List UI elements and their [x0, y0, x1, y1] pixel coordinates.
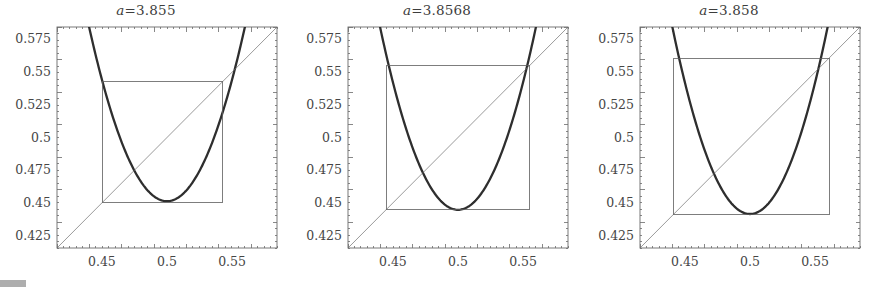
y-tick-label: 0.45 [314, 195, 342, 210]
plot-panel-2: a=3.8568 0.4250.450.4750.50.5250.550.575… [291, 0, 583, 293]
y-tick-label: 0.575 [306, 31, 342, 46]
y-tick-label: 0.425 [15, 228, 51, 243]
y-tick-label: 0.5 [31, 130, 51, 145]
plot-panel-1: a=3.855 0.4250.450.4750.50.5250.550.5750… [0, 0, 292, 293]
x-tick-label: 0.55 [493, 254, 553, 269]
y-tick-label: 0.5 [614, 130, 634, 145]
y-tick-label: 0.575 [598, 31, 634, 46]
second-iterate-parabola [640, 0, 860, 214]
figure-three-cobweb-plots: a=3.855 0.4250.450.4750.50.5250.550.5750… [0, 0, 875, 293]
y-tick-label: 0.525 [598, 97, 634, 112]
caption-swatch-icon [0, 280, 26, 287]
x-tick-label: 0.5 [428, 254, 488, 269]
y-tick-label: 0.55 [314, 64, 342, 79]
y-tick-label: 0.55 [23, 64, 51, 79]
x-tick-label: 0.55 [785, 254, 845, 269]
x-tick-label: 0.55 [202, 254, 262, 269]
y-tick-label: 0.5 [322, 130, 342, 145]
second-iterate-parabola [348, 0, 568, 210]
x-tick-label: 0.45 [655, 254, 715, 269]
y-tick-label: 0.45 [606, 195, 634, 210]
y-tick-label: 0.525 [306, 97, 342, 112]
identity-line [57, 27, 277, 248]
y-tick-label: 0.55 [606, 64, 634, 79]
y-tick-label: 0.425 [598, 228, 634, 243]
identity-line [348, 27, 568, 248]
x-tick-label: 0.5 [137, 254, 197, 269]
y-tick-label: 0.45 [23, 195, 51, 210]
y-tick-label: 0.575 [15, 31, 51, 46]
x-tick-label: 0.45 [363, 254, 423, 269]
x-tick-label: 0.45 [72, 254, 132, 269]
y-tick-label: 0.525 [15, 97, 51, 112]
y-tick-label: 0.475 [15, 162, 51, 177]
x-tick-label: 0.5 [720, 254, 780, 269]
second-iterate-parabola [57, 0, 277, 201]
y-tick-label: 0.425 [306, 228, 342, 243]
plot-panel-3: a=3.858 0.4250.450.4750.50.5250.550.5750… [583, 0, 875, 293]
clipped-caption-fragment [0, 276, 875, 293]
y-tick-label: 0.475 [306, 162, 342, 177]
y-tick-label: 0.475 [598, 162, 634, 177]
